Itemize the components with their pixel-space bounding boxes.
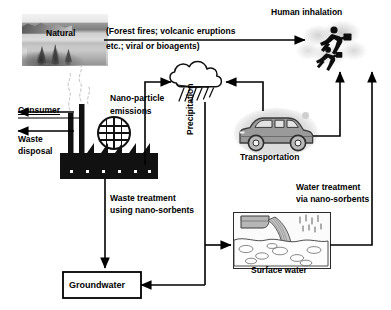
precipitation-label: Precipitation (185, 84, 195, 135)
transportation-label: Transportation (240, 152, 300, 162)
waste-treatment-line2: using nano-sorbents (110, 205, 194, 215)
arrow-water-treatment-to-inhalation (330, 72, 372, 245)
waste-disposal-label-line1: Waste (18, 134, 43, 144)
nano-particle-emissions-line2: emissions (110, 106, 152, 116)
surface-water-illustration-detail (234, 215, 328, 266)
consumer-label: Consumer (18, 105, 60, 115)
natural-label: Natural (46, 28, 75, 38)
water-treatment-line1: Water treatment (296, 182, 360, 192)
groundwater-label: Groundwater (69, 280, 125, 290)
rain-cloud-icon (170, 62, 221, 102)
arrow-transport-to-inhalation (313, 72, 340, 136)
nano-particle-emissions-line1: Nano-particle (110, 93, 164, 103)
surface-water-label: Surface water (251, 265, 307, 275)
factory-smoke-icon (68, 66, 89, 110)
running-people-icon (316, 26, 352, 70)
waste-disposal-label-line2: disposal (18, 146, 52, 156)
natural-sources-note-line1: (Forest fires; volcanic eruptions (106, 26, 235, 36)
arrow-transport-to-cloud (226, 82, 263, 111)
waste-treatment-line1: Waste treatment (110, 193, 176, 203)
natural-sources-note-line2: etc.; viral or bioagents) (106, 41, 200, 51)
diagram-canvas: Natural (Forest fires; volcanic eruption… (0, 0, 391, 310)
minivan-icon (240, 118, 313, 151)
water-treatment-line2: via nano-sorbents (296, 194, 369, 204)
human-inhalation-label: Human inhalation (271, 7, 342, 17)
